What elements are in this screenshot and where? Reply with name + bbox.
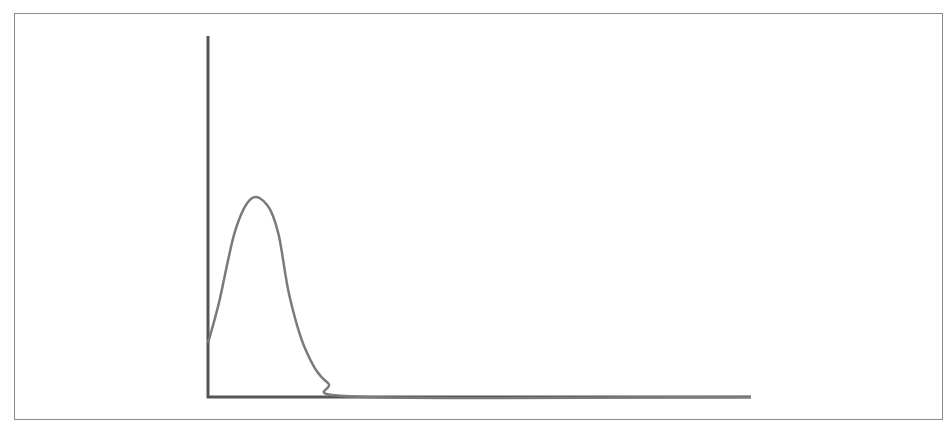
chart-plot-area [0, 0, 951, 433]
distribution-curve [208, 197, 751, 398]
